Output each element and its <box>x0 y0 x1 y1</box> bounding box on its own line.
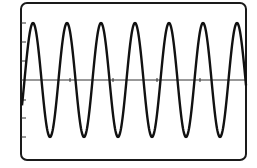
oscilloscope-figure <box>0 0 257 168</box>
